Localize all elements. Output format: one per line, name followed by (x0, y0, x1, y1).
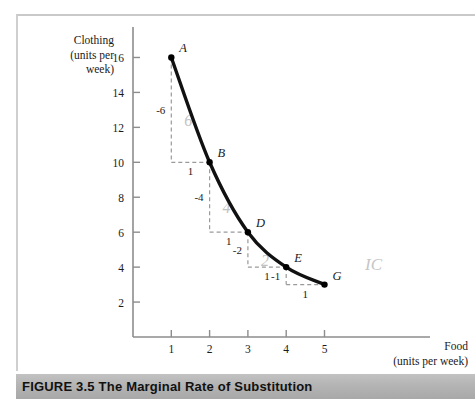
y-axis-ticks: 246810121416 (113, 52, 141, 309)
x-tick-label: 3 (245, 343, 251, 355)
curve-point-b (206, 159, 212, 165)
x-axis-ticks: 12345 (168, 330, 327, 355)
curve-data-points: ABDEG (168, 41, 341, 287)
step-delta-clothing-label: -1 (271, 270, 280, 282)
figure-caption-bar: FIGURE 3.5 The Marginal Rate of Substitu… (0, 374, 475, 399)
x-tick-label: 5 (322, 343, 328, 355)
curve-point-a (168, 54, 174, 60)
step-delta-clothing-label: -2 (233, 244, 242, 256)
curve-point-label-e: E (293, 251, 302, 265)
y-tick-label: 16 (113, 52, 125, 64)
curve-point-label-a: A (178, 41, 187, 55)
x-tick-label: 2 (207, 343, 213, 355)
curve-point-g (321, 281, 327, 287)
step-delta-clothing-label: -6 (156, 104, 166, 116)
step-delta-food-label: 1 (188, 165, 194, 177)
figure-caption-text: FIGURE 3.5 The Marginal Rate of Substitu… (0, 379, 312, 394)
curve-point-label-d: D (255, 216, 265, 230)
indifference-curve-chart: 246810121416 12345 -61-41-21-11 642 ABDE… (0, 0, 475, 372)
curve-point-d (245, 229, 251, 235)
step-delta-clothing-label: -4 (194, 191, 204, 203)
y-tick-label: 8 (118, 192, 124, 204)
y-tick-label: 12 (113, 122, 125, 134)
curve-point-label-g: G (333, 269, 342, 283)
y-tick-label: 10 (113, 157, 125, 169)
curve-point-e (283, 264, 289, 270)
y-tick-label: 4 (118, 262, 124, 274)
step-delta-food-label: 1 (226, 235, 232, 247)
curve-label-ic: IC (364, 255, 383, 274)
step-delta-food-label: 1 (264, 270, 270, 282)
step-delta-food-label: 1 (303, 288, 309, 300)
x-tick-label: 1 (168, 343, 174, 355)
y-tick-label: 14 (113, 87, 125, 99)
curve-point-label-b: B (218, 146, 226, 160)
y-tick-label: 6 (118, 227, 124, 239)
x-tick-label: 4 (283, 343, 289, 355)
caption-left-margin (0, 374, 16, 399)
figure-container: Clothing (units per week) Food (units pe… (0, 0, 475, 402)
y-tick-label: 2 (118, 297, 124, 309)
